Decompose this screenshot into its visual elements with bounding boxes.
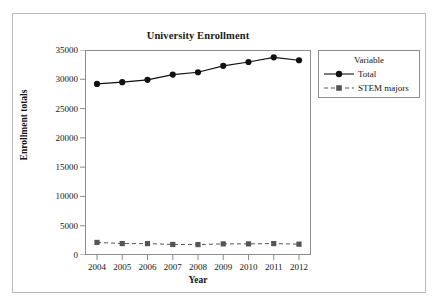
series-total xyxy=(94,54,302,87)
y-tick-label: 5000 xyxy=(60,221,78,231)
y-tick-label: 20000 xyxy=(56,133,79,143)
data-point xyxy=(271,241,276,246)
y-axis-title: Enrollment totals xyxy=(19,65,29,185)
data-point xyxy=(94,81,100,87)
x-tick-label: 2006 xyxy=(139,262,157,272)
data-point xyxy=(220,63,226,69)
x-axis-title: Year xyxy=(85,275,311,285)
x-tick-label: 2012 xyxy=(290,262,308,272)
x-tick-label: 2004 xyxy=(88,262,106,272)
x-axis-ticks xyxy=(85,255,311,262)
data-point xyxy=(221,241,226,246)
data-point xyxy=(245,59,251,65)
data-point xyxy=(120,241,125,246)
x-tick-label: 2009 xyxy=(214,262,232,272)
filled-circle-marker xyxy=(322,67,356,81)
legend-item-total[interactable]: Total xyxy=(322,67,376,81)
x-tick-label: 2005 xyxy=(113,262,131,272)
y-tick-label: 35000 xyxy=(56,45,79,55)
data-point xyxy=(170,242,175,247)
x-tick-label: 2007 xyxy=(164,262,182,272)
data-point xyxy=(170,72,176,78)
legend-label-stem-majors: STEM majors xyxy=(358,83,409,93)
legend-title: Variable xyxy=(318,55,420,65)
y-tick-label: 15000 xyxy=(56,162,79,172)
chart-figure: University Enrollment Enrollment totals … xyxy=(0,0,438,306)
y-tick-label: 25000 xyxy=(56,104,79,114)
series-stem-majors xyxy=(94,240,301,247)
x-tick-label: 2011 xyxy=(265,262,283,272)
x-tick-label: 2008 xyxy=(189,262,207,272)
data-point xyxy=(119,79,125,85)
y-tick-label: 30000 xyxy=(56,74,79,84)
legend-item-stem-majors[interactable]: STEM majors xyxy=(322,81,409,95)
y-tick-label: 10000 xyxy=(56,191,79,201)
data-point xyxy=(195,69,201,75)
data-point xyxy=(296,57,302,63)
data-point xyxy=(94,240,99,245)
data-point xyxy=(271,54,277,60)
data-point xyxy=(296,242,301,247)
data-point xyxy=(246,241,251,246)
y-axis-tick-labels: 05000100001500020000250003000035000 xyxy=(36,50,78,255)
filled-square-marker xyxy=(322,81,356,95)
x-axis-tick-labels: 200420052006200720082009201020112012 xyxy=(85,262,311,275)
plot-area xyxy=(85,50,311,255)
data-point xyxy=(195,242,200,247)
chart-title: University Enrollment xyxy=(85,30,311,41)
legend-label-total: Total xyxy=(358,69,376,79)
x-tick-label: 2010 xyxy=(240,262,258,272)
data-point xyxy=(144,77,150,83)
data-point xyxy=(145,241,150,246)
